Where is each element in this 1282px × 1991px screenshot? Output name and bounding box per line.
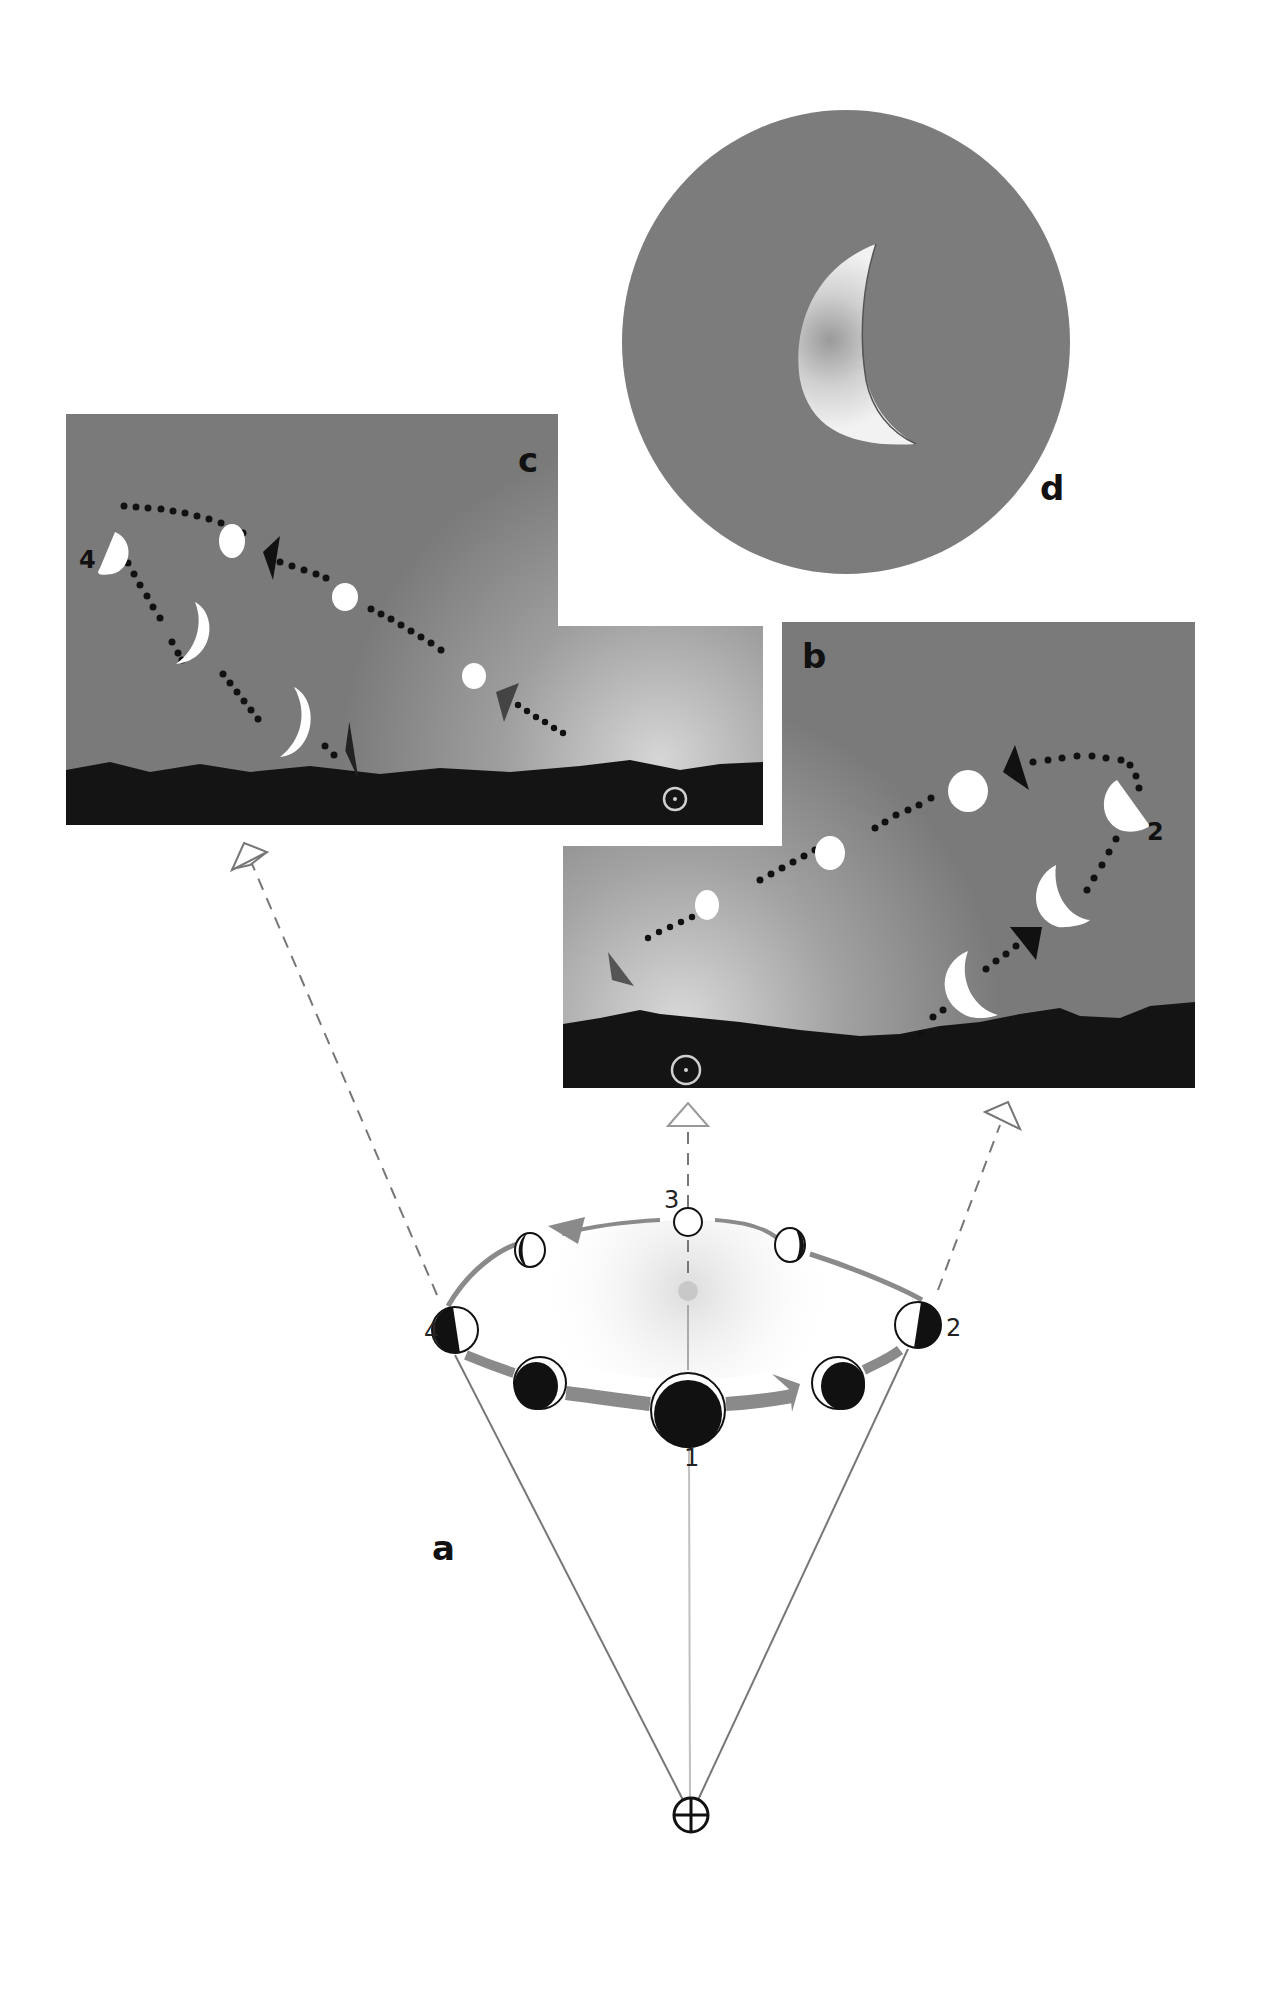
phase-label-4: 4 [424,1318,439,1346]
moon-phases-diagram: d [0,0,1282,1991]
hollow-arrow-icon [668,1103,708,1126]
phase-label-3: 3 [664,1186,679,1214]
phase-label-1: 1 [684,1444,699,1472]
new-moon-orbit-icon [651,1373,725,1448]
hollow-arrow-icon [985,1102,1020,1129]
full-moon-icon [462,663,486,689]
phase-label-4: 4 [79,546,96,574]
waxing-crescent-orbit-icon [812,1357,865,1410]
panel-d: d [622,110,1070,574]
waxing-gibbous-orbit-icon [775,1228,805,1262]
panel-label-d: d [1040,468,1064,508]
gibbous-moon-icon [815,836,845,870]
sun-icon [678,1281,698,1301]
full-moon-icon [695,890,719,920]
gibbous-moon-icon [219,524,245,558]
first-quarter-orbit-icon [895,1302,941,1348]
gibbous-moon-icon [948,770,988,812]
waning-gibbous-orbit-icon [515,1233,545,1267]
phase-label-2: 2 [1147,818,1164,846]
panel-label-c: c [518,440,538,480]
panel-c: c 4 [66,414,763,825]
phase-label-2: 2 [946,1314,961,1342]
sky-background [66,414,763,825]
full-moon-icon [332,583,358,611]
earth-icon [674,1798,708,1832]
panel-label-a: a [432,1528,455,1568]
panel-label-b: b [802,636,826,676]
waning-crescent-orbit-icon [514,1357,566,1410]
